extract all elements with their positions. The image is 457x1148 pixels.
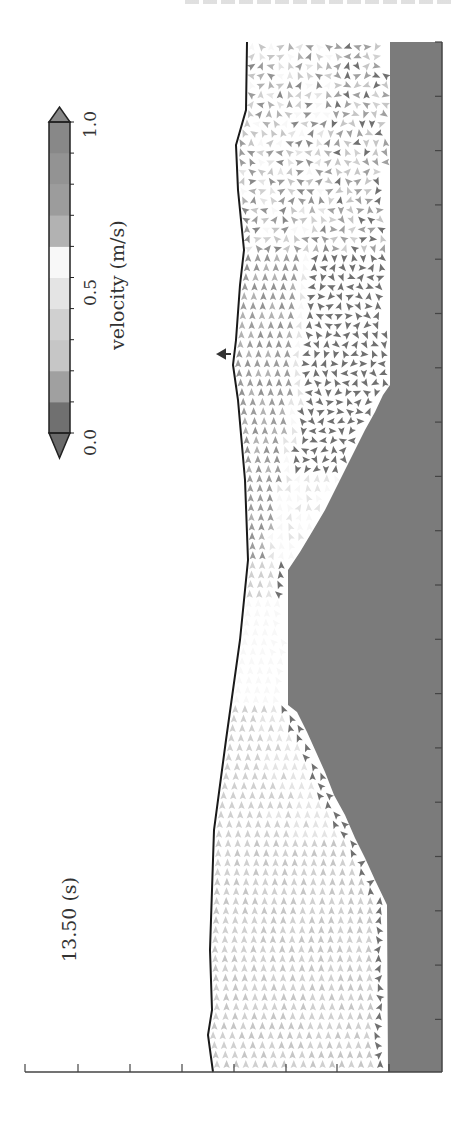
- time-label: 13.50 (s): [58, 877, 80, 962]
- free-surface-line: [208, 42, 248, 1072]
- colorbar-tick-05: 0.5: [80, 279, 100, 306]
- colorbar-label: velocity (m/s): [106, 220, 128, 350]
- colorbar-tick-0: 0.0: [80, 429, 100, 456]
- colorbar: [49, 107, 74, 458]
- channel-bed: [288, 42, 442, 1072]
- colorbar-tick-1: 1.0: [80, 111, 100, 138]
- gauge-marker-icon: [218, 350, 231, 358]
- velocity-field-plot: [0, 0, 457, 1148]
